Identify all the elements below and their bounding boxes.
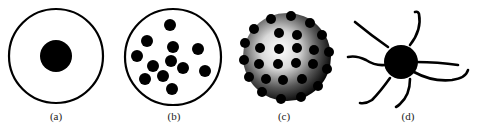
panel-label-d: (d) (402, 110, 415, 122)
core-dot (40, 40, 72, 72)
schematic-figure (0, 0, 478, 128)
panel-label-c: (c) (278, 110, 290, 122)
panel-label-a: (a) (50, 110, 62, 122)
particle-dots (131, 19, 211, 95)
core-dot (384, 45, 418, 79)
panel-a-graphic (9, 9, 103, 103)
panel-d-graphic (348, 12, 468, 107)
panel-label-b: (b) (168, 110, 181, 122)
panel-b-graphic (125, 9, 221, 105)
panel-c-graphic (239, 11, 334, 104)
